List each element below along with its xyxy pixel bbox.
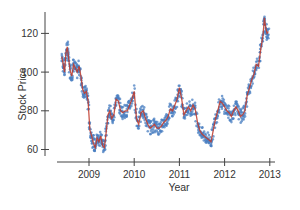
x-axis: 20092010201120122013 xyxy=(57,158,281,180)
stock-price-chart: 6080100120 20092010201120122013 Stock Pr… xyxy=(0,0,300,210)
data-points xyxy=(60,15,270,153)
x-tick-label: 2012 xyxy=(213,169,236,180)
x-axis-title: Year xyxy=(168,181,190,193)
x-tick-label: 2010 xyxy=(123,169,146,180)
y-tick-label: 60 xyxy=(27,144,39,155)
y-tick-label: 80 xyxy=(27,105,39,116)
y-axis-title: Stock Price xyxy=(16,67,28,120)
x-tick-label: 2011 xyxy=(169,169,191,180)
x-tick-label: 2009 xyxy=(78,169,101,180)
y-tick-label: 120 xyxy=(21,28,38,39)
x-tick-label: 2013 xyxy=(259,169,282,180)
plot-area xyxy=(60,15,270,153)
